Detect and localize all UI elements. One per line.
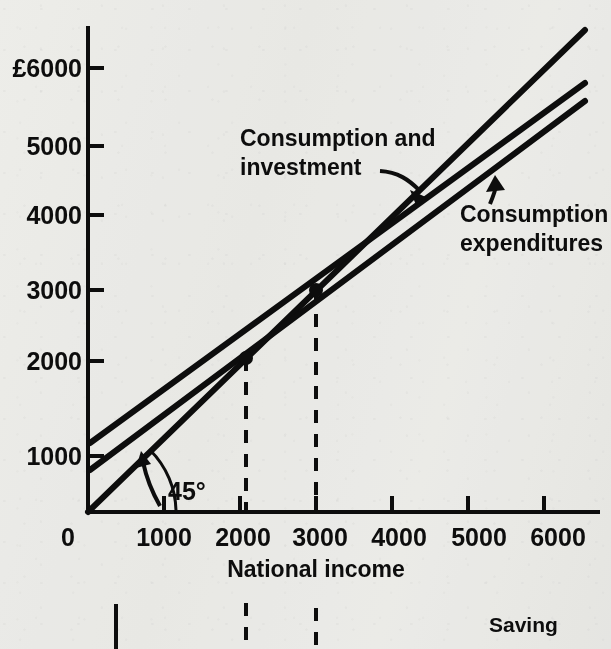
consumption-expenditures-arrow-icon (486, 175, 505, 204)
y-tick-label-5000: 5000 (26, 132, 82, 160)
x-tick-label-2000: 2000 (215, 523, 271, 551)
x-axis-ticks (164, 496, 544, 512)
consumption-expenditures-label-line1: Consumption (460, 201, 608, 227)
y-tick-label-2000: 2000 (26, 347, 82, 375)
lower-panel: Saving (116, 603, 558, 649)
y-tick-label-4000: 4000 (26, 201, 82, 229)
y-tick-label-6000: £6000 (12, 54, 82, 82)
x-axis-title: National income (227, 556, 405, 582)
y-axis-tick-labels: £6000 5000 4000 3000 2000 1000 (12, 54, 82, 470)
x-tick-label-5000: 5000 (451, 523, 507, 551)
keynesian-cross-chart: £6000 5000 4000 3000 2000 1000 0 1000 20… (0, 0, 611, 649)
x-tick-label-3000: 3000 (292, 523, 348, 551)
consumption-expenditures-label-line2: expenditures (460, 230, 603, 256)
y-axis-ticks (88, 68, 104, 456)
y-tick-label-1000: 1000 (26, 442, 82, 470)
consumption-and-investment-label-line2: investment (240, 154, 362, 180)
x-tick-label-0: 0 (61, 523, 75, 551)
x-tick-label-6000: 6000 (530, 523, 586, 551)
consumption-and-investment-label-line1: Consumption and (240, 125, 435, 151)
x-tick-label-1000: 1000 (136, 523, 192, 551)
line-45-degree (88, 30, 585, 512)
y-tick-label-3000: 3000 (26, 276, 82, 304)
angle-label: 45° (168, 477, 206, 505)
x-tick-label-4000: 4000 (371, 523, 427, 551)
saving-label: Saving (489, 613, 558, 636)
x-axis-tick-labels: 0 1000 2000 3000 4000 5000 6000 (61, 523, 586, 551)
